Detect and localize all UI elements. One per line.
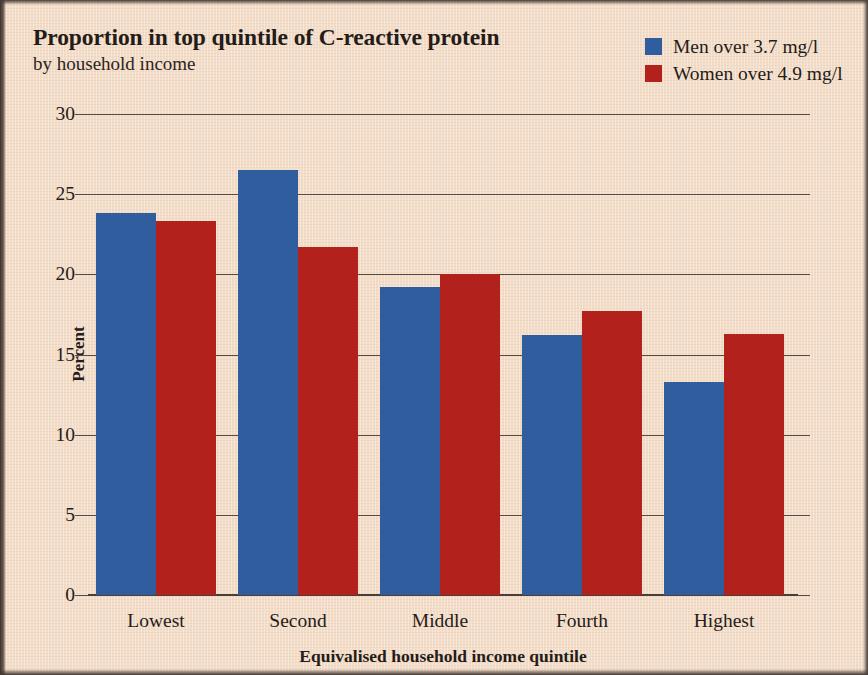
y-axis-tick xyxy=(75,274,88,275)
y-axis-tick xyxy=(75,595,88,596)
y-axis-tick-label: 0 xyxy=(15,584,75,606)
y-axis-tick-label: 5 xyxy=(15,504,75,526)
legend-label: Women over 4.9 mg/l xyxy=(673,63,843,85)
bar xyxy=(724,334,784,595)
bar xyxy=(440,274,500,595)
legend-swatch-icon xyxy=(645,65,662,82)
y-axis-tick-label: 10 xyxy=(15,424,75,446)
page-edge-right xyxy=(863,0,868,675)
bar xyxy=(664,382,724,595)
bar xyxy=(522,335,582,595)
bar xyxy=(238,170,298,595)
y-axis-tick-right xyxy=(798,515,810,516)
chart-legend: Men over 3.7 mg/lWomen over 4.9 mg/l xyxy=(645,33,843,87)
y-axis-tick-label: 20 xyxy=(15,263,75,285)
x-axis-tick-label: Lowest xyxy=(127,610,184,632)
page-edge-bottom xyxy=(0,669,868,675)
bar xyxy=(582,311,642,595)
y-axis-tick-right xyxy=(798,595,810,596)
gridline xyxy=(88,114,798,115)
y-axis-tick xyxy=(75,114,88,115)
y-axis-tick xyxy=(75,435,88,436)
y-axis-tick xyxy=(75,355,88,356)
legend-label: Men over 3.7 mg/l xyxy=(673,36,818,58)
x-axis-tick-label: Second xyxy=(269,610,326,632)
y-axis-tick-right xyxy=(798,194,810,195)
y-axis-tick-label: 15 xyxy=(15,344,75,366)
bar xyxy=(96,213,156,595)
y-axis-tick-right xyxy=(798,274,810,275)
plot-area: Percent Equivalised household income qui… xyxy=(88,114,798,595)
x-axis-tick-label: Fourth xyxy=(556,610,608,632)
legend-item[interactable]: Men over 3.7 mg/l xyxy=(645,33,843,60)
y-axis-tick-label: 25 xyxy=(15,183,75,205)
bar xyxy=(380,287,440,595)
legend-swatch-icon xyxy=(645,38,662,55)
x-axis-tick-label: Middle xyxy=(412,610,468,632)
chart-subtitle: by household income xyxy=(33,54,613,75)
title-block: Proportion in top quintile of C-reactive… xyxy=(33,24,613,75)
y-axis-tick-right xyxy=(798,114,810,115)
legend-item[interactable]: Women over 4.9 mg/l xyxy=(645,60,843,87)
bar xyxy=(298,247,358,595)
chart-title: Proportion in top quintile of C-reactive… xyxy=(33,24,613,50)
y-axis-tick xyxy=(75,194,88,195)
bar xyxy=(156,221,216,595)
x-axis-title: Equivalised household income quintile xyxy=(88,646,798,667)
y-axis-tick-right xyxy=(798,435,810,436)
x-axis-tick-label: Highest xyxy=(694,610,755,632)
gridline xyxy=(88,194,798,195)
chart-figure: Proportion in top quintile of C-reactive… xyxy=(0,0,868,675)
y-axis-tick xyxy=(75,515,88,516)
y-axis-tick-label: 30 xyxy=(15,103,75,125)
y-axis-tick-right xyxy=(798,355,810,356)
